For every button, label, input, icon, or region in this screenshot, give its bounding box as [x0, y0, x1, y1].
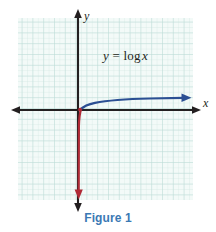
axis-label-y: y: [84, 10, 89, 22]
equation-operator: =: [109, 48, 123, 63]
logarithm-graph: [0, 0, 216, 232]
axis-label-x: x: [203, 97, 208, 109]
equation-argument: x: [142, 48, 148, 63]
figure-container: y = log x y x Figure 1: [0, 0, 216, 232]
equation-function-name: log: [123, 48, 140, 63]
curve-root-point: [78, 108, 82, 112]
equation-label: y = log x: [103, 48, 148, 64]
figure-caption: Figure 1: [0, 211, 216, 225]
